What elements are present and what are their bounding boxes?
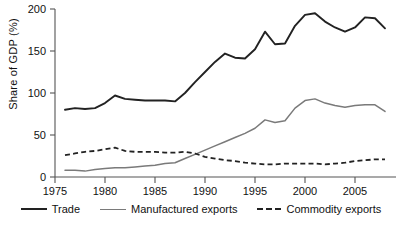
legend-item-trade: Trade: [21, 203, 80, 215]
series-line-commodity-exports: [65, 148, 385, 165]
x-tick-label: 2005: [343, 185, 367, 197]
series-line-manufactured-exports: [65, 99, 385, 171]
chart-figure: Share of GDP (%) 050100150200 1975198019…: [0, 0, 402, 226]
legend-swatch-commodity-exports-icon: [257, 208, 281, 210]
x-tick-label: 1990: [193, 185, 217, 197]
legend-swatch-manufactured-exports-icon: [100, 209, 126, 210]
line-chart-plot: 050100150200 197519801985199019952000200…: [0, 0, 402, 226]
x-axis-ticks: 1975198019851990199520002005: [43, 177, 367, 197]
chart-legend: Trade Manufactured exports Commodity exp…: [0, 203, 402, 215]
x-tick-label: 1975: [43, 185, 67, 197]
x-tick-label: 2000: [293, 185, 317, 197]
y-tick-label: 150: [28, 45, 46, 57]
x-tick-label: 1985: [143, 185, 167, 197]
y-tick-label: 0: [40, 171, 46, 183]
legend-label-manufactured-exports: Manufactured exports: [131, 203, 237, 215]
legend-label-trade: Trade: [52, 203, 80, 215]
legend-item-commodity-exports: Commodity exports: [257, 203, 381, 215]
legend-swatch-trade-icon: [21, 208, 47, 210]
y-axis-ticks: 050100150200: [28, 3, 55, 183]
x-tick-label: 1995: [243, 185, 267, 197]
x-tick-label: 1980: [93, 185, 117, 197]
y-tick-label: 200: [28, 3, 46, 15]
series-line-trade: [65, 13, 385, 110]
legend-label-commodity-exports: Commodity exports: [286, 203, 381, 215]
legend-item-manufactured-exports: Manufactured exports: [100, 203, 237, 215]
y-tick-label: 100: [28, 87, 46, 99]
y-tick-label: 50: [34, 129, 46, 141]
